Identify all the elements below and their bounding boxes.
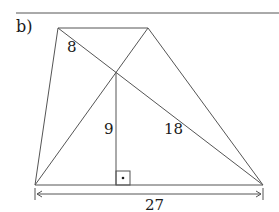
label-8: 8 [67, 38, 77, 56]
left-side [35, 28, 58, 185]
diagonal-b [35, 28, 148, 185]
trapezoid-diagram: b) 8 9 18 27 [0, 0, 279, 212]
right-side [148, 28, 263, 185]
label-18: 18 [164, 120, 183, 138]
right-angle-dot [122, 177, 125, 180]
problem-label: b) [16, 17, 32, 36]
label-27: 27 [145, 196, 164, 212]
label-9: 9 [104, 120, 114, 138]
diagonal-a [58, 28, 263, 185]
